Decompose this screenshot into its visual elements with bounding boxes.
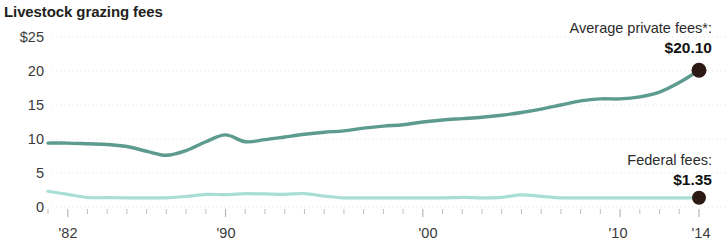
endpoint-dot-private-fees [692, 63, 707, 78]
gridlines [52, 37, 726, 207]
x-axis-tick-10: '10 [609, 225, 628, 241]
x-axis-tick-82: '82 [59, 225, 78, 241]
annotation-federal-fees: Federal fees: $1.35 [627, 152, 712, 189]
endpoint-dot-federal-fees [692, 191, 706, 205]
annotation-federal-fees-label: Federal fees: [627, 152, 712, 168]
x-axis-tick-90: '90 [217, 225, 236, 241]
x-axis-tick-00: '00 [419, 225, 438, 241]
annotation-private-fees-label: Average private fees*: [570, 20, 712, 36]
x-axis-tickmarks [48, 209, 699, 217]
annotation-private-fees: Average private fees*: $20.10 [570, 20, 712, 57]
annotation-federal-fees-value: $1.35 [627, 171, 712, 189]
series-line-federal-fees [48, 191, 699, 198]
series-line-average-private-fees [48, 70, 699, 155]
chart-container: Livestock grazing fees $25 20 15 10 5 0 … [0, 0, 726, 247]
x-axis-tick-14: '14 [692, 225, 711, 241]
annotation-private-fees-value: $20.10 [570, 39, 712, 57]
